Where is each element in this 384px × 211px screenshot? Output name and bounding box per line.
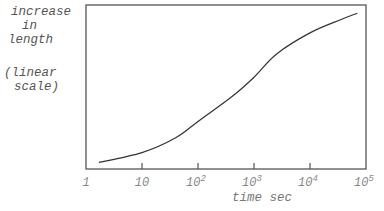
x-tick-label: 105 [354,174,374,190]
chart-canvas: 110102103104105 time sec [0,0,384,211]
plot-frame [86,5,366,169]
x-ticks [142,163,310,169]
x-tick-labels: 110102103104105 [82,174,374,190]
data-curve [99,13,357,162]
x-tick-label: 1 [82,176,89,190]
x-axis-label: time sec [232,191,292,205]
x-tick-label: 102 [186,174,206,190]
x-tick-label: 10 [135,176,149,190]
x-tick-label: 104 [298,174,318,190]
x-tick-label: 103 [242,174,262,190]
